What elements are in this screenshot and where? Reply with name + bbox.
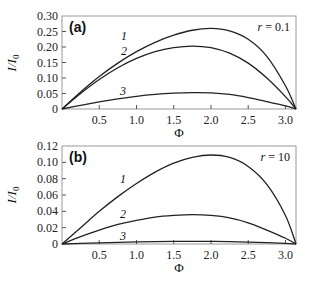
x-tick-label: 1.0 — [129, 248, 144, 262]
curve-label-3: 3 — [119, 84, 126, 98]
y-tick-label: 0.20 — [37, 40, 58, 54]
y-tick-label: 0.10 — [37, 71, 58, 85]
y-tick-label: 0.10 — [37, 155, 58, 169]
panel-label: (b) — [69, 149, 87, 165]
y-tick-label: 0.08 — [37, 172, 58, 186]
y-tick-label: 0.05 — [37, 87, 58, 101]
y-tick-label: 0.12 — [37, 139, 58, 153]
panel-b: 0.51.01.52.02.53.000.020.040.060.080.100… — [4, 139, 296, 275]
y-tick-label: 0.04 — [37, 204, 58, 218]
x-axis-title: Φ — [174, 125, 184, 140]
panel-a: 0.51.01.52.02.53.000.050.100.150.200.250… — [4, 9, 296, 140]
x-tick-label: 2.5 — [241, 248, 256, 262]
curve-label-2: 2 — [121, 44, 127, 58]
figure: 0.51.01.52.02.53.000.050.100.150.200.250… — [0, 0, 310, 288]
y-tick-label: 0.25 — [37, 25, 58, 39]
x-tick-label: 1.0 — [129, 113, 144, 127]
y-tick-label: 0 — [52, 237, 58, 251]
parameter-annotation: r = 0.1 — [258, 20, 290, 34]
x-axis-title: Φ — [174, 260, 184, 275]
x-tick-label: 2.0 — [203, 113, 218, 127]
x-tick-label: 3.0 — [278, 248, 293, 262]
y-tick-label: 0.15 — [37, 56, 58, 70]
x-tick-label: 3.0 — [278, 113, 293, 127]
panel-label: (a) — [69, 19, 86, 35]
curve-label-2: 2 — [120, 207, 126, 221]
curve-label-1: 1 — [121, 29, 127, 43]
y-tick-label: 0.06 — [37, 188, 58, 202]
x-tick-label: 2.5 — [241, 113, 256, 127]
y-axis-title: I/I0 — [4, 186, 21, 204]
curve-3 — [62, 93, 296, 109]
y-tick-label: 0.30 — [37, 9, 58, 23]
curve-label-3: 3 — [119, 229, 126, 243]
parameter-annotation: r = 10 — [261, 150, 290, 164]
y-tick-label: 0.02 — [37, 221, 58, 235]
y-tick-label: 0 — [52, 102, 58, 116]
x-tick-label: 2.0 — [203, 248, 218, 262]
x-tick-label: 0.5 — [92, 248, 107, 262]
curve-label-1: 1 — [120, 172, 126, 186]
curve-2 — [62, 215, 296, 244]
x-tick-label: 0.5 — [92, 113, 107, 127]
curve-1 — [62, 28, 296, 109]
y-axis-title: I/I0 — [4, 54, 21, 72]
